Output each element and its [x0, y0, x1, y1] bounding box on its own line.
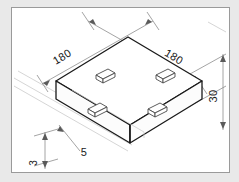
image-frame: 180 180 30 5 3: [0, 0, 239, 182]
dim-label-pad-height: 3: [28, 160, 39, 166]
isometric-plate-drawing: 180 180 30 5 3: [12, 8, 229, 172]
leader-line-pad-offset: [59, 125, 80, 151]
dim-label-thickness: 30: [207, 90, 219, 103]
dim-label-pad-offset: 5: [81, 146, 87, 158]
dim-label-width-left: 180: [51, 46, 74, 66]
drawing-sheet: 180 180 30 5 3: [11, 7, 230, 173]
